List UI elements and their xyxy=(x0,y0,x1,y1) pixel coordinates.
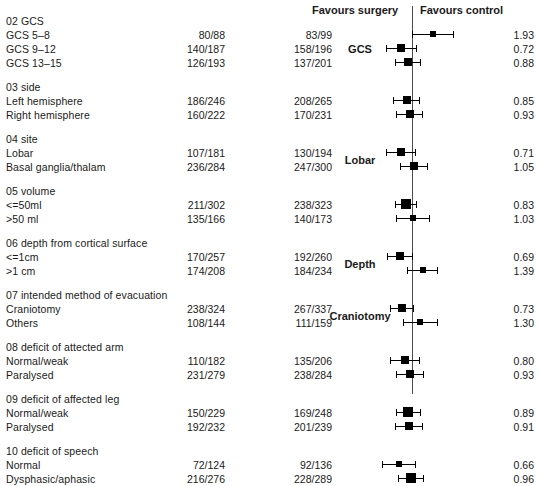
surgery-events-total: 108/144 xyxy=(120,316,225,330)
ci-cap-left xyxy=(395,201,396,208)
table-row: GCS 5–880/8883/991.93 xyxy=(0,28,540,42)
row-label: Others xyxy=(6,316,38,330)
group-heading-label: 10 deficit of speech xyxy=(6,444,98,458)
odds-ratio-value: 0.89 xyxy=(478,406,534,420)
table-row: Others108/144111/1591.30 xyxy=(0,316,540,330)
table-row: GCS 9–12140/187158/1960.72 xyxy=(0,42,540,56)
control-events-total: 140/173 xyxy=(228,212,332,226)
row-label: <=1cm xyxy=(6,250,39,264)
control-events-total: 192/260 xyxy=(228,250,332,264)
control-events-total: 158/196 xyxy=(228,42,332,56)
row-label: GCS 13–15 xyxy=(6,56,62,70)
row-label: >1 cm xyxy=(6,264,35,278)
control-events-total: 92/136 xyxy=(228,458,332,472)
group-heading-label: 07 intended method of evacuation xyxy=(6,288,167,302)
odds-ratio-value: 0.85 xyxy=(478,94,534,108)
group-heading-04: 04 site xyxy=(0,132,540,146)
table-row: Paralysed192/232201/2390.91 xyxy=(0,420,540,434)
table-row: Craniotomy238/324267/3370.73 xyxy=(0,302,540,316)
point-estimate-marker xyxy=(406,110,414,118)
control-events-total: 111/159 xyxy=(228,316,332,330)
surgery-events-total: 231/279 xyxy=(120,368,225,382)
plot-group-label-07: Craniotomy xyxy=(318,309,402,323)
table-row: <=50ml211/302238/3230.83 xyxy=(0,198,540,212)
surgery-events-total: 150/229 xyxy=(120,406,225,420)
surgery-events-total: 140/187 xyxy=(120,42,225,56)
surgery-events-total: 72/124 xyxy=(120,458,225,472)
odds-ratio-value: 0.83 xyxy=(478,198,534,212)
ci-cap-right xyxy=(420,59,421,66)
ci-cap-left xyxy=(407,267,408,274)
point-estimate-marker xyxy=(401,199,411,209)
ci-cap-left xyxy=(398,475,399,482)
ci-cap-left xyxy=(396,409,397,416)
control-events-total: 228/289 xyxy=(228,472,332,486)
surgery-events-total: 216/276 xyxy=(120,472,225,486)
group-heading-09: 09 deficit of affected leg xyxy=(0,392,540,406)
control-events-total: 247/300 xyxy=(228,160,332,174)
control-events-total: 201/239 xyxy=(228,420,332,434)
point-estimate-marker xyxy=(403,407,413,417)
point-estimate-marker xyxy=(406,473,416,483)
surgery-events-total: 135/166 xyxy=(120,212,225,226)
surgery-events-total: 107/181 xyxy=(120,146,225,160)
ci-cap-left xyxy=(393,97,394,104)
plot-group-label-02: GCS xyxy=(318,42,402,56)
surgery-events-total: 126/193 xyxy=(120,56,225,70)
group-heading-label: 04 site xyxy=(6,132,38,146)
table-row: <=1cm170/257192/2600.69 xyxy=(0,250,540,264)
surgery-events-total: 186/246 xyxy=(120,94,225,108)
table-row: Lobar107/181130/1940.71 xyxy=(0,146,540,160)
surgery-events-total: 174/208 xyxy=(120,264,225,278)
ci-cap-right xyxy=(413,305,414,312)
control-events-total: 169/248 xyxy=(228,406,332,420)
surgery-events-total: 170/257 xyxy=(120,250,225,264)
ci-cap-right xyxy=(437,267,438,274)
row-label: Left hemisphere xyxy=(6,94,83,108)
surgery-events-total: 160/222 xyxy=(120,108,225,122)
table-row: Normal/weak150/229169/2480.89 xyxy=(0,406,540,420)
table-row: Right hemisphere160/222170/2310.93 xyxy=(0,108,540,122)
ci-cap-right xyxy=(422,423,423,430)
group-heading-05: 05 volume xyxy=(0,184,540,198)
row-label: Right hemisphere xyxy=(6,108,90,122)
odds-ratio-value: 0.88 xyxy=(478,56,534,70)
point-estimate-marker xyxy=(406,370,414,378)
control-events-total: 135/206 xyxy=(228,354,332,368)
group-heading-label: 02 GCS xyxy=(6,14,44,28)
odds-ratio-value: 0.93 xyxy=(478,368,534,382)
table-row: Dysphasic/aphasic216/276228/2890.96 xyxy=(0,472,540,486)
row-label: >50 ml xyxy=(6,212,38,226)
ci-cap-left xyxy=(412,31,413,38)
surgery-events-total: 211/302 xyxy=(120,198,225,212)
odds-ratio-value: 1.30 xyxy=(478,316,534,330)
ci-cap-right xyxy=(423,371,424,378)
row-label: GCS 5–8 xyxy=(6,28,50,42)
odds-ratio-value: 0.80 xyxy=(478,354,534,368)
ci-cap-right xyxy=(427,163,428,170)
ci-cap-right xyxy=(422,111,423,118)
ci-cap-left xyxy=(396,111,397,118)
odds-ratio-value: 0.66 xyxy=(478,458,534,472)
point-estimate-marker xyxy=(417,319,423,325)
row-label: Normal xyxy=(6,458,40,472)
table-row: GCS 13–15126/193137/2010.88 xyxy=(0,56,540,70)
odds-ratio-value: 0.71 xyxy=(478,146,534,160)
row-label: Normal/weak xyxy=(6,406,68,420)
group-heading-03: 03 side xyxy=(0,80,540,94)
odds-ratio-value: 1.03 xyxy=(478,212,534,226)
surgery-events-total: 192/232 xyxy=(120,420,225,434)
ci-cap-right xyxy=(419,357,420,364)
surgery-events-total: 110/182 xyxy=(120,354,225,368)
row-label: Craniotomy xyxy=(6,302,61,316)
ci-cap-left xyxy=(390,357,391,364)
table-row: Basal ganglia/thalam236/284247/3001.05 xyxy=(0,160,540,174)
point-estimate-marker xyxy=(396,461,402,467)
odds-ratio-value: 0.91 xyxy=(478,420,534,434)
row-label: Basal ganglia/thalam xyxy=(6,160,105,174)
row-label: Dysphasic/aphasic xyxy=(6,472,95,486)
group-heading-label: 05 volume xyxy=(6,184,55,198)
control-events-total: 208/265 xyxy=(228,94,332,108)
odds-ratio-value: 0.73 xyxy=(478,302,534,316)
